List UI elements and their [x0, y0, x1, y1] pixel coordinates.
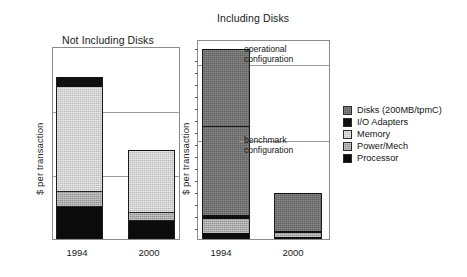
bar-segment-memory — [128, 150, 175, 212]
plot-area-not-including-disks — [52, 47, 180, 240]
bar-segment-io-adapters — [56, 77, 103, 87]
y-axis-tick — [195, 121, 198, 122]
y-axis-tick — [195, 73, 198, 74]
y-axis-tick — [195, 193, 198, 194]
bar-segment-memory — [56, 87, 103, 191]
y-axis-tick — [195, 205, 198, 206]
bar-left-1994 — [56, 77, 103, 239]
y-axis-tick — [195, 217, 198, 218]
y-axis-tick — [195, 157, 198, 158]
figure-root: Not Including Disks $ per transaction 19… — [0, 0, 467, 277]
bar-segment-processor — [56, 206, 103, 239]
legend-swatch-disks-icon — [343, 106, 352, 115]
y-axis-tick — [195, 229, 198, 230]
panel-title-left: Not Including Disks — [62, 34, 154, 46]
panel-title-right: Including Disks — [217, 12, 289, 24]
bar-segment-disks — [274, 193, 322, 231]
y-axis-tick — [195, 133, 198, 134]
bar-segment-processor — [274, 237, 322, 239]
bar-segment-power-mech — [202, 219, 250, 233]
y-axis-label-right: $ per transaction — [180, 123, 191, 195]
legend-label: I/O Adapters — [357, 117, 408, 128]
x-tick-right-1994: 1994 — [189, 247, 253, 258]
annotation-line-2: configuration — [244, 146, 293, 156]
y-axis-tick — [195, 169, 198, 170]
legend-swatch-power-mech-icon — [343, 142, 352, 151]
legend-label: Disks (200MB/tpmC) — [357, 105, 442, 116]
x-tick-left-2000: 2000 — [117, 247, 181, 258]
legend-label: Processor — [357, 153, 398, 164]
bar-segment-power-mech — [56, 191, 103, 206]
y-axis-tick — [195, 145, 198, 146]
annotation-operational-configuration: operational configuration — [244, 45, 293, 64]
bar-internal-benchmark-split — [202, 126, 250, 127]
x-tick-right-2000: 2000 — [261, 247, 325, 258]
bar-segment-processor — [128, 220, 175, 239]
y-axis-tick — [195, 85, 198, 86]
y-axis-tick — [195, 61, 198, 62]
bar-segment-power-mech — [128, 212, 175, 220]
legend-swatch-processor-icon — [343, 154, 352, 163]
annotation-line-2: configuration — [244, 55, 293, 65]
bar-left-2000 — [128, 150, 175, 239]
bar-segment-processor — [202, 233, 250, 239]
legend-swatch-io-adapters-icon — [343, 118, 352, 127]
bar-segment-disks — [202, 49, 250, 215]
bar-right-1994 — [202, 49, 250, 239]
legend-label: Memory — [357, 129, 390, 140]
annotation-benchmark-configuration: benchmark configuration — [244, 136, 293, 155]
legend: Disks (200MB/tpmC) I/O Adapters Memory P… — [343, 105, 463, 167]
bar-right-2000 — [274, 193, 322, 239]
y-axis-label-left: $ per transaction — [34, 123, 45, 195]
legend-swatch-memory-icon — [343, 130, 352, 139]
y-axis-tick — [195, 109, 198, 110]
legend-label: Power/Mech — [357, 141, 408, 152]
y-axis-tick — [195, 97, 198, 98]
y-axis-tick — [195, 49, 198, 50]
y-axis-tick — [195, 181, 198, 182]
x-tick-left-1994: 1994 — [45, 247, 109, 258]
